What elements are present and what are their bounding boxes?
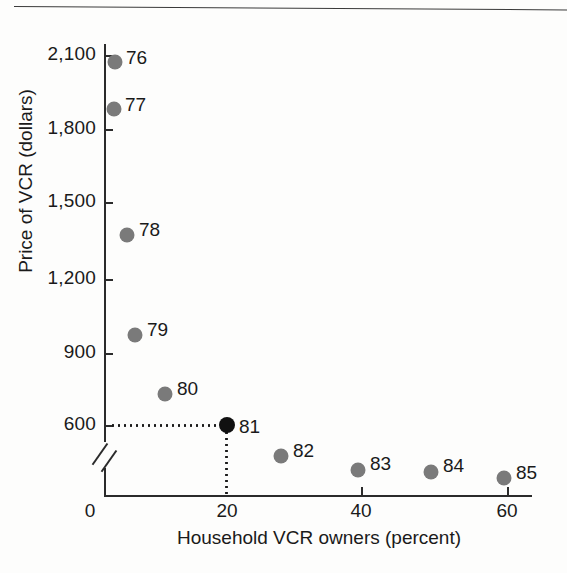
data-point-label-77: 77 [125,94,146,116]
guide-line-vertical-20 [225,432,228,494]
y-axis-break-slash-1 [92,443,108,465]
y-tick-label: 1,200 [47,267,96,289]
y-tick-label: 2,100 [47,43,96,65]
data-point-85 [497,471,512,486]
y-axis-line-lower-segment [104,468,106,496]
y-tick-mark [104,202,113,204]
data-point-label-81: 81 [239,416,260,438]
data-point-label-84: 84 [443,455,464,477]
y-axis-title: Price of VCR (dollars) [15,81,37,281]
data-point-label-79: 79 [147,319,168,341]
x-tick-label: 60 [496,500,517,522]
x-axis-title: Household VCR owners (percent) [104,527,534,549]
y-tick-label: 1,500 [47,190,96,212]
data-point-label-85: 85 [516,462,537,484]
data-point-80 [158,387,173,402]
data-point-78 [120,228,135,243]
data-point-label-83: 83 [370,453,391,475]
data-point-84 [424,465,439,480]
top-divider-rule [14,6,567,10]
data-point-83 [351,463,366,478]
data-point-79 [128,328,143,343]
data-point-76 [108,55,123,70]
y-tick-label: 900 [64,341,96,363]
y-axis-line [104,44,106,442]
y-tick-mark [104,279,113,281]
y-tick-label: 1,800 [47,117,96,139]
y-tick-mark [104,129,113,131]
x-tick-label: 40 [350,500,371,522]
scatter-plot-figure: 2,1001,8001,5001,200900600 0204060 76777… [0,0,567,573]
data-point-label-82: 82 [293,440,314,462]
x-axis-line [104,495,532,497]
x-tick-label: 20 [216,500,237,522]
data-point-81 [219,417,235,433]
data-point-77 [107,102,122,117]
y-tick-mark [104,353,113,355]
data-point-82 [274,449,289,464]
y-tick-label: 600 [64,413,96,435]
x-tick-mark [507,487,509,496]
data-point-label-76: 76 [126,47,147,69]
x-tick-mark [361,487,363,496]
data-point-label-80: 80 [177,378,198,400]
x-tick-label: 0 [85,500,96,522]
y-axis-break-slash-2 [101,450,117,472]
guide-line-horizontal-600 [108,424,226,427]
data-point-label-78: 78 [139,219,160,241]
